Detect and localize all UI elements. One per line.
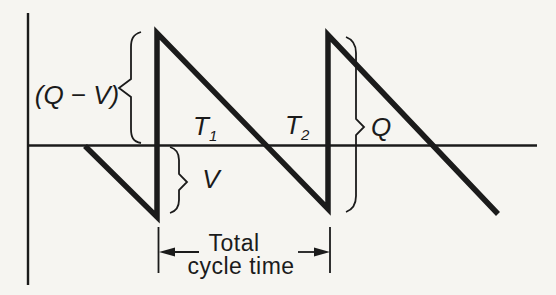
cycle-left-arrowhead-icon: [159, 248, 175, 257]
brace-q-minus-v: [119, 32, 141, 143]
label-t2-subscript: 2: [300, 126, 310, 143]
label-t1-subscript: 1: [209, 127, 217, 144]
sawtooth-cycle-diagram: (Q − V) T 1 T 2 Q V Total cycle time: [0, 0, 556, 295]
label-q: Q: [371, 112, 391, 142]
label-v: V: [202, 164, 222, 194]
label-q-minus-v: (Q − V): [35, 80, 120, 110]
brace-v: [170, 147, 187, 213]
total-cycle-time-label-line2: cycle time: [187, 253, 294, 279]
cycle-right-arrowhead-icon: [314, 248, 330, 257]
diagram-canvas: (Q − V) T 1 T 2 Q V Total cycle time: [0, 0, 556, 295]
